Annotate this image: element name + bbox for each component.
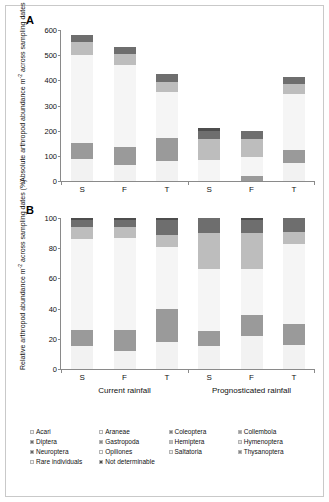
- y-axis-tick-label: 80: [49, 244, 57, 253]
- stacked-bar: [156, 30, 178, 181]
- bar-segment: [114, 165, 136, 181]
- y-axis-tick-mark: [58, 80, 61, 81]
- x-axis-tick-label: S: [79, 373, 84, 382]
- legend: AcariAraneaeColeopteraCollembolaDipteraG…: [30, 428, 305, 465]
- bar-segment: [198, 131, 220, 139]
- legend-item: Opiliones: [99, 448, 166, 455]
- x-axis-tick-label: T: [164, 373, 169, 382]
- bar-segment: [71, 159, 93, 181]
- bar-segment: [114, 54, 136, 65]
- stacked-bar: [283, 218, 305, 369]
- bar-segment: [283, 150, 305, 163]
- y-axis-tick-label: 40: [49, 304, 57, 313]
- y-axis-tick-label: 200: [44, 126, 57, 135]
- x-axis-tick-label: T: [164, 185, 169, 194]
- legend-swatch-icon: [169, 440, 173, 444]
- x-axis-tick-mark: [61, 369, 62, 373]
- panel-b-bars: [61, 218, 315, 369]
- legend-item-label: Neuroptera: [36, 448, 69, 455]
- panel-a-y-axis-label-text: Absolute arthropod abundance m: [19, 78, 26, 182]
- y-axis-tick-mark: [58, 106, 61, 107]
- legend-item-label: Araneae: [105, 428, 130, 435]
- x-axis-tick-mark: [314, 181, 315, 185]
- bar-segment: [71, 55, 93, 143]
- bar-segment: [198, 346, 220, 369]
- y-axis-tick-mark: [58, 156, 61, 157]
- bar-segment: [71, 239, 93, 330]
- legend-item: Araneae: [99, 428, 166, 435]
- legend-swatch-icon: [30, 450, 34, 454]
- legend-swatch-icon: [99, 450, 103, 454]
- legend-swatch-icon: [30, 460, 34, 464]
- x-axis-tick-label: F: [249, 185, 254, 194]
- legend-item-label: Diptera: [36, 438, 57, 445]
- legend-swatch-icon: [99, 460, 103, 464]
- bar-segment: [156, 309, 178, 342]
- legend-item: Hymenoptera: [238, 438, 305, 445]
- legend-item-label: Collembola: [244, 428, 277, 435]
- bar-segment: [283, 232, 305, 244]
- y-axis-tick-mark: [58, 309, 61, 310]
- bar-segment: [198, 331, 220, 346]
- bar-segment: [283, 94, 305, 151]
- bar-segment: [156, 218, 178, 220]
- x-axis-tick-label: S: [79, 185, 84, 194]
- bar-segment: [241, 220, 263, 234]
- bar-segment: [114, 330, 136, 351]
- legend-item: Acari: [30, 428, 97, 435]
- y-axis-tick-label: 100: [44, 214, 57, 223]
- stacked-bar: [241, 30, 263, 181]
- panel-a: A Absolute arthropod abundance m-2 acros…: [0, 8, 329, 198]
- bar-segment: [114, 218, 136, 220]
- stacked-bar: [114, 30, 136, 181]
- bar-segment: [71, 218, 93, 220]
- bar-segment: [71, 42, 93, 55]
- legend-swatch-icon: [30, 430, 34, 434]
- x-axis-tick-label: F: [122, 373, 127, 382]
- bar-segment: [114, 47, 136, 53]
- legend-item: Gastropoda: [99, 438, 166, 445]
- legend-item: Saltatoria: [169, 448, 236, 455]
- panel-a-y-axis-label: Absolute arthropod abundance m-2 across …: [16, 30, 27, 182]
- bar-segment: [71, 330, 93, 347]
- y-axis-tick-mark: [58, 55, 61, 56]
- bar-segment: [156, 138, 178, 161]
- bar-segment: [198, 269, 220, 331]
- panel-b-y-axis-label-text2: across sampling dates (%): [19, 180, 26, 262]
- bar-segment: [283, 244, 305, 324]
- bar-segment: [241, 269, 263, 314]
- legend-item: Not determinable: [99, 458, 166, 465]
- stacked-bar: [241, 218, 263, 369]
- legend-item: Hemiptera: [169, 438, 236, 445]
- panel-a-plot-area: 6005004003002001000SFTSFT: [60, 30, 315, 182]
- panel-b-letter: B: [26, 204, 34, 216]
- x-axis-tick-mark: [314, 369, 315, 373]
- bar-segment: [241, 315, 263, 336]
- legend-item-label: Thysanoptera: [244, 448, 284, 455]
- figure-container: A Absolute arthropod abundance m-2 acros…: [0, 0, 329, 502]
- legend-swatch-icon: [169, 450, 173, 454]
- legend-swatch-icon: [238, 430, 242, 434]
- y-axis-tick-mark: [58, 278, 61, 279]
- legend-item-label: Opiliones: [105, 448, 132, 455]
- legend-item-label: Not determinable: [105, 458, 155, 465]
- y-axis-tick-mark: [58, 248, 61, 249]
- stacked-bar: [198, 30, 220, 181]
- legend-item: Thysanoptera: [238, 448, 305, 455]
- bar-segment: [241, 131, 263, 139]
- legend-swatch-icon: [99, 440, 103, 444]
- legend-swatch-icon: [99, 430, 103, 434]
- bar-segment: [71, 35, 93, 43]
- stacked-bar: [71, 30, 93, 181]
- y-axis-tick-label: 0: [53, 177, 57, 186]
- legend-swatch-icon: [238, 440, 242, 444]
- panel-a-bars: [61, 30, 315, 181]
- panel-a-y-axis-label-sup: -2: [17, 74, 23, 78]
- stacked-bar: [156, 218, 178, 369]
- bar-segment: [241, 336, 263, 369]
- bar-segment: [114, 147, 136, 165]
- bar-segment: [241, 139, 263, 157]
- x-axis-tick-label: S: [206, 185, 211, 194]
- legend-item-label: Acari: [36, 428, 51, 435]
- bar-segment: [114, 65, 136, 147]
